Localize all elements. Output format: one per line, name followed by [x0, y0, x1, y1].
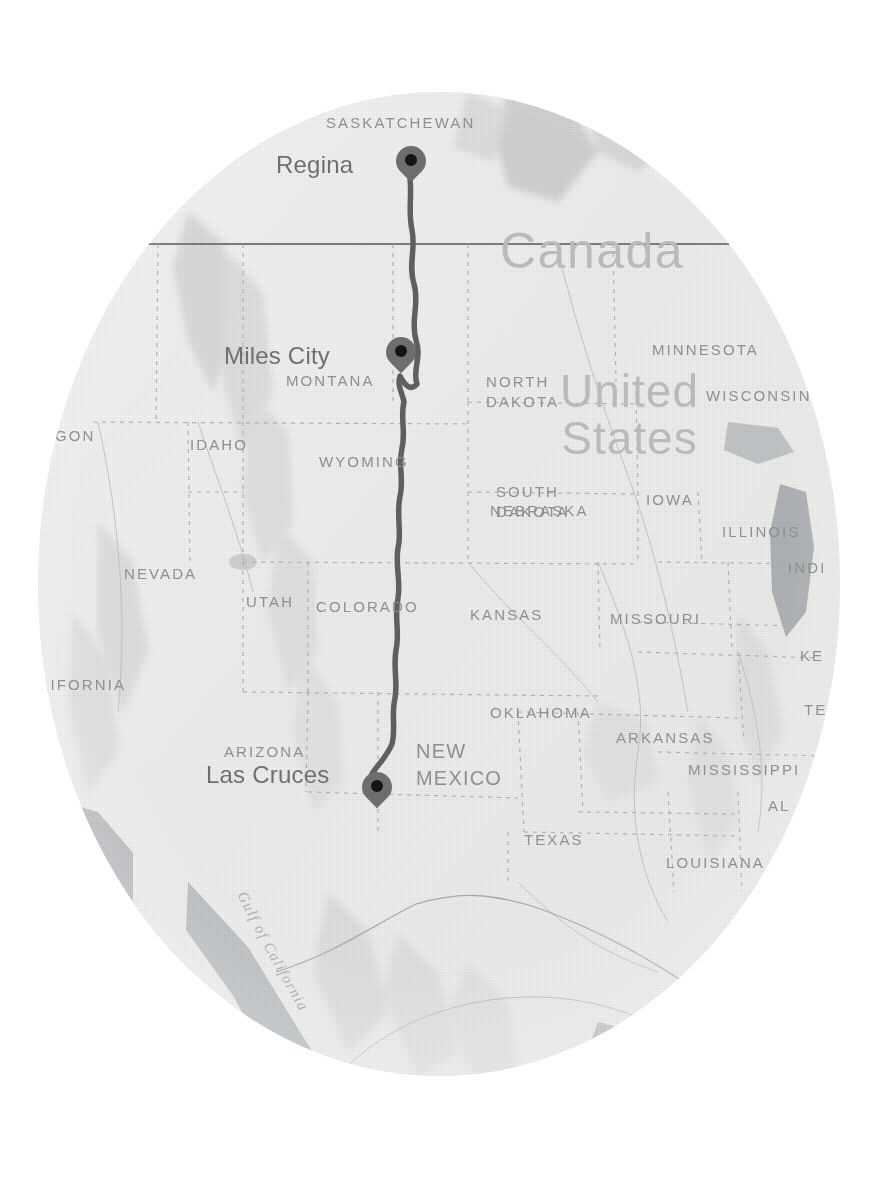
- map-pin-center-dot: [405, 154, 417, 166]
- map-pin-regina[interactable]: [396, 146, 426, 188]
- water-label-layer: Gulf of California: [38, 92, 840, 1076]
- map-pin-miles-city[interactable]: [386, 337, 416, 379]
- map-pin-center-dot: [395, 345, 407, 357]
- map-canvas[interactable]: Canada SASKATCHEWAN United States TON RE…: [38, 92, 840, 1076]
- map-pin-center-dot: [371, 780, 383, 792]
- map-pin-las-cruces[interactable]: [362, 772, 392, 814]
- map-ellipse-viewport[interactable]: Canada SASKATCHEWAN United States TON RE…: [38, 92, 840, 1076]
- water-label-gulf-of-california: Gulf of California: [235, 889, 313, 1014]
- route-map-figure: Canada SASKATCHEWAN United States TON RE…: [0, 0, 879, 1189]
